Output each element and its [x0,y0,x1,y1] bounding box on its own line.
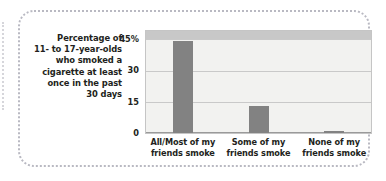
bar-series [145,30,372,134]
y-tick-label-0: 0 [109,128,139,138]
x-label-all-most-line1: All/Most of my [145,137,221,148]
x-label-some-line1: Some of my [221,137,297,148]
x-label-none-line2: friends smoke [296,148,372,159]
x-axis-category-labels: All/Most of my friends smoke Some of my … [145,137,372,163]
y-tick-label-15: 15 [109,97,139,107]
y-tick-label-30: 30 [109,65,139,75]
bar-all-most [173,41,193,133]
x-label-none-line1: None of my [296,137,372,148]
x-label-some: Some of my friends smoke [221,137,297,158]
caption-line-5: once in the past [30,78,122,89]
adjacent-box-edge-fragment [2,22,4,110]
caption-line-2: 11- to 17-year-olds [30,44,122,55]
x-label-all-most: All/Most of my friends smoke [145,137,221,158]
x-label-none: None of my friends smoke [296,137,372,158]
y-tick-label-45: 45% [109,34,139,44]
bar-none [324,131,344,133]
x-label-all-most-line2: friends smoke [145,148,221,159]
bar-some [249,106,269,133]
bar-chart [145,30,372,134]
x-label-some-line2: friends smoke [221,148,297,159]
figure: Percentage of 11- to 17-year-olds who sm… [0,0,386,181]
